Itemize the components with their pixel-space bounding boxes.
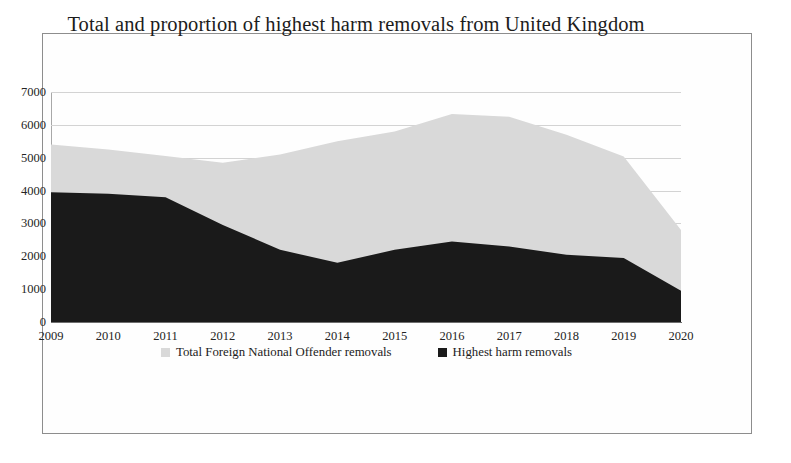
- x-axis-tick-label: 2011: [139, 330, 193, 343]
- x-axis-tick-label: 2009: [24, 330, 78, 343]
- legend-swatch-icon: [438, 348, 447, 357]
- x-axis-tick-label: 2016: [425, 330, 479, 343]
- chart-legend: Total Foreign National Offender removals…: [51, 345, 682, 360]
- legend-entry-total-foreign-national-offender-removals: Total Foreign National Offender removals: [161, 345, 392, 360]
- y-axis-tick-label: 4000: [2, 185, 46, 197]
- x-axis-tick-label: 2015: [368, 330, 422, 343]
- y-axis-tick-label: 6000: [2, 119, 46, 131]
- x-axis-line: [51, 322, 682, 323]
- legend-label: Total Foreign National Offender removals: [176, 345, 392, 360]
- x-axis-tick-label: 2017: [482, 330, 536, 343]
- legend-swatch-icon: [161, 348, 170, 357]
- y-axis-tick-label: 5000: [2, 152, 46, 164]
- x-axis-tick-label: 2013: [253, 330, 307, 343]
- x-axis-tick-label: 2020: [654, 330, 708, 343]
- x-axis-tick-label: 2018: [539, 330, 593, 343]
- chart-title: Total and proportion of highest harm rem…: [56, 10, 656, 38]
- legend-label: Highest harm removals: [453, 345, 572, 360]
- y-axis-tick-label: 2000: [2, 250, 46, 262]
- area-series-svg: [51, 92, 681, 322]
- legend-entry-highest-harm-removals: Highest harm removals: [438, 345, 572, 360]
- y-axis-tick-label: 1000: [2, 283, 46, 295]
- x-axis-tick-label: 2010: [81, 330, 135, 343]
- x-axis-tick-label: 2014: [310, 330, 364, 343]
- plot-area: [51, 92, 681, 322]
- x-axis-tick-label: 2019: [597, 330, 651, 343]
- y-axis-tick-label: 3000: [2, 217, 46, 229]
- x-axis-tick-label: 2012: [196, 330, 250, 343]
- y-axis-tick-label: 0: [2, 316, 46, 328]
- y-axis-tick-label: 7000: [2, 86, 46, 98]
